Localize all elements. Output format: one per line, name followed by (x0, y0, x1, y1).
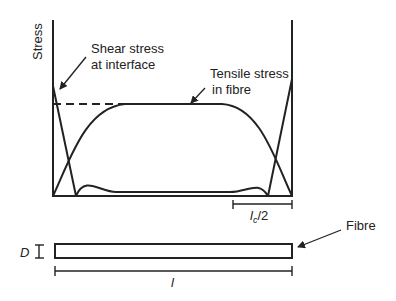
critical-length-label: lc/2 (250, 208, 268, 225)
shear-stress-curve-left-bottom (76, 189, 116, 196)
length-label: l (171, 275, 175, 290)
diameter-bracket (35, 245, 44, 258)
shear-stress-label-line2: at interface (91, 57, 155, 72)
tensile-stress-label-line2: in fibre (212, 82, 251, 97)
y-axis-label: Stress (30, 23, 45, 60)
tensile-arrow (191, 88, 205, 103)
shear-stress-label-line1: Shear stress (91, 41, 164, 56)
fibre-shape (55, 244, 292, 258)
tensile-stress-label-line1: Tensile stress (210, 66, 289, 81)
diameter-label: D (20, 245, 29, 260)
shear-arrow (60, 57, 86, 89)
shear-stress-curve (53, 79, 292, 196)
fibre-label: Fibre (346, 218, 376, 233)
fibre-arrow (298, 230, 341, 247)
tensile-stress-curve (53, 104, 292, 196)
fibre-stress-diagram: Stress Shear stress at interface Tensile… (0, 0, 396, 301)
plot-frame (52, 20, 293, 197)
